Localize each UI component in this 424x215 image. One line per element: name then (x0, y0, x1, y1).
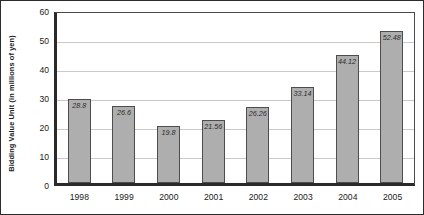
bar-series: 28.826.619.821.5626.2633.1444.1252.48 (57, 13, 414, 183)
bar[interactable]: 33.14 (291, 87, 314, 183)
bar-slot: 21.56 (191, 13, 236, 183)
x-axis-tick-label: 1998 (57, 192, 102, 202)
bar[interactable]: 52.48 (380, 31, 403, 183)
y-axis-tick-label: 40 (19, 66, 49, 75)
y-axis-tick-label: 20 (19, 124, 49, 133)
bar-value-label: 52.48 (383, 34, 401, 42)
y-axis-tick-label: 10 (19, 153, 49, 162)
x-axis-tick-label: 2005 (370, 192, 415, 202)
x-axis-tick-labels: 19981999200020012002200320042005 (57, 192, 415, 202)
bar[interactable]: 28.8 (68, 99, 91, 183)
plot-area: 28.826.619.821.5626.2633.1444.1252.48 (54, 12, 415, 186)
bar-slot: 28.8 (57, 13, 102, 183)
y-axis-tick-label: 30 (19, 95, 49, 104)
bar-value-label: 44.12 (338, 58, 356, 66)
x-axis-tick-label: 1999 (102, 192, 147, 202)
bar[interactable]: 44.12 (336, 55, 359, 183)
bar-slot: 44.12 (325, 13, 370, 183)
x-axis-tick-label: 2000 (147, 192, 192, 202)
bar-value-label: 33.14 (293, 90, 311, 98)
bar-slot: 33.14 (280, 13, 325, 183)
bar-slot: 19.8 (146, 13, 191, 183)
bar-value-label: 28.8 (72, 102, 86, 110)
y-axis-tick-label: 60 (19, 8, 49, 17)
y-axis-title: Bidding Value Unit (in millions of yen) (5, 6, 19, 201)
x-axis-tick-label: 2001 (191, 192, 236, 202)
bar-slot: 52.48 (369, 13, 414, 183)
bar-value-label: 19.8 (162, 129, 176, 137)
bar-value-label: 26.26 (249, 110, 267, 118)
y-axis-tick-label: 50 (19, 37, 49, 46)
bar[interactable]: 26.26 (246, 107, 269, 183)
x-axis-tick-label: 2002 (236, 192, 281, 202)
bar[interactable]: 19.8 (157, 126, 180, 183)
bar-value-label: 26.6 (117, 109, 131, 117)
y-axis-tick-labels: 0102030405060 (19, 1, 49, 215)
bar[interactable]: 26.6 (112, 106, 135, 183)
x-axis-tick-label: 2004 (326, 192, 371, 202)
bar-slot: 26.26 (236, 13, 281, 183)
y-axis-tick-label: 0 (19, 182, 49, 191)
bar-slot: 26.6 (102, 13, 147, 183)
bar-chart-figure: Bidding Value Unit (in millions of yen) … (0, 0, 424, 215)
x-axis-tick-label: 2003 (281, 192, 326, 202)
bar-value-label: 21.56 (204, 123, 222, 131)
bar[interactable]: 21.56 (202, 120, 225, 183)
